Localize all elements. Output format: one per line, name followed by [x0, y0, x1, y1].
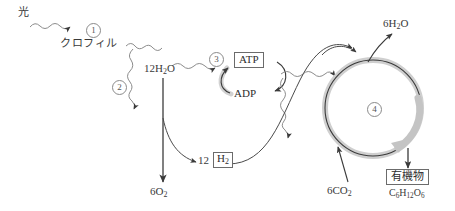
glucose-o: O — [414, 187, 421, 198]
hydrogen-box-subscript: 2 — [225, 157, 229, 166]
water-output-tail: O — [400, 17, 408, 29]
hydrogen-count-label: 12 — [198, 155, 209, 166]
chlorophyll-to-water-wavy — [126, 44, 162, 51]
co2-input-text: 6CO — [327, 184, 348, 196]
marker-two: 2 — [112, 80, 127, 95]
glucose-formula-label: C6H12O6 — [389, 188, 425, 200]
glucose-h: H — [399, 187, 406, 198]
oxygen-output-subscript: 2 — [163, 190, 167, 199]
marker-four: 4 — [367, 102, 382, 117]
hydrogen-box: H2 — [213, 152, 233, 168]
glucose-o-subscript: 6 — [421, 192, 425, 200]
organic-matter-box: 有機物 — [386, 169, 429, 185]
glucose-c: C — [389, 187, 396, 198]
water-input-text: 12H — [144, 62, 163, 74]
atp-to-adp-arrow — [275, 62, 286, 91]
adp-label: ADP — [234, 88, 256, 99]
oxygen-output-text: 6O — [150, 185, 163, 197]
marker-three: 3 — [209, 52, 224, 67]
atp-energy-wavy-upper — [281, 72, 335, 77]
water-output-text: 6H — [383, 17, 396, 29]
chlorophyll-label: クロフィル — [60, 38, 118, 49]
marker-one: 1 — [86, 23, 101, 38]
oxygen-output-label: 6O2 — [150, 186, 167, 199]
co2-input-label: 6CO2 — [327, 185, 352, 198]
co2-input-subscript: 2 — [348, 189, 352, 198]
water-input-tail: O — [167, 62, 175, 74]
chlorophyll-descend-wavy-arrow — [128, 49, 135, 109]
water-output-label: 6H2O — [383, 18, 408, 31]
photosynthesis-diagram: 光 1 クロフィル 2 12H2O 3 ATP ADP 6O2 12 H2 6H… — [0, 0, 455, 211]
atp-cycle-glow — [221, 68, 231, 94]
co2-to-cycle-arrow — [338, 147, 348, 182]
light-label: 光 — [18, 7, 29, 18]
light-ray-wavy-arrow — [30, 24, 70, 29]
to-atp-wavy-arrow — [172, 64, 215, 70]
water-input-label: 12H2O — [144, 63, 175, 76]
hydrogen-box-text: H — [217, 152, 225, 164]
water-to-hydrogen-curve — [163, 118, 196, 162]
glucose-h-subscript: 12 — [407, 192, 414, 200]
atp-box: ATP — [234, 52, 264, 68]
